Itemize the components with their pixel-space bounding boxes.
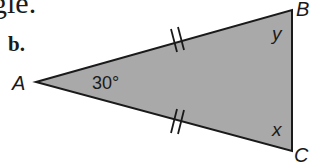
angle-label-c: x	[271, 119, 283, 140]
vertex-label-c: C	[294, 144, 309, 164]
vertex-label-a: A	[11, 72, 25, 94]
triangle-figure: A B C 30° y x	[0, 0, 311, 164]
triangle-abc	[36, 10, 292, 151]
angle-label-b: y	[270, 23, 283, 44]
vertex-label-b: B	[296, 0, 309, 20]
angle-label-a: 30°	[92, 73, 119, 93]
